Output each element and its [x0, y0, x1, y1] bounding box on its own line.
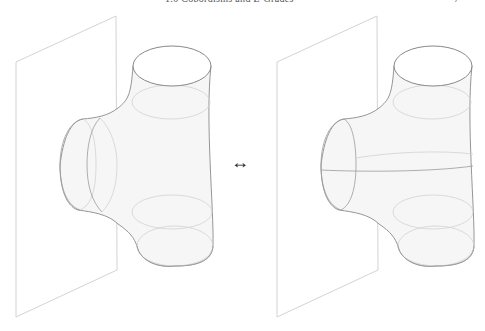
right-panel — [277, 16, 474, 317]
equivalence-arrow: ↔ — [231, 152, 249, 173]
left-panel — [16, 16, 213, 317]
